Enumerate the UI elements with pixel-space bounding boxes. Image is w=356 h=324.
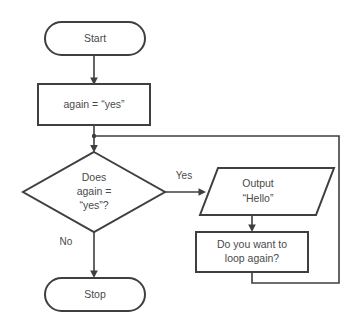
junction-dot-icon (92, 134, 96, 138)
connector-decision-no-to-stop (90, 232, 98, 278)
node-start[interactable]: Start (45, 22, 145, 55)
arrowhead-icon (248, 225, 256, 233)
connector-start-to-assign (90, 55, 98, 85)
decision-label-line2: again = (77, 185, 112, 197)
flowchart-canvas: Start again = “yes” Does again = “yes”? … (0, 0, 356, 324)
node-stop[interactable]: Stop (45, 278, 145, 311)
edge-label-yes: Yes (176, 170, 192, 181)
prompt-label-line1: Do you want to (217, 238, 287, 250)
connector-output-to-prompt (248, 215, 256, 232)
output-label-line2: “Hello” (243, 192, 274, 204)
stop-label: Stop (84, 288, 106, 300)
edge-label-no: No (60, 236, 73, 247)
flowchart-svg: Start again = “yes” Does again = “yes”? … (0, 0, 356, 324)
node-assign[interactable]: again = “yes” (38, 84, 150, 125)
arrowhead-icon (199, 188, 207, 196)
prompt-label-line2: loop again? (225, 252, 279, 264)
node-output[interactable]: Output “Hello” (200, 168, 334, 215)
decision-label-line3: “yes”? (79, 199, 108, 211)
connector-decision-yes-to-output (165, 188, 206, 196)
start-label: Start (84, 32, 106, 44)
output-label-line1: Output (242, 177, 274, 189)
node-decision[interactable]: Does again = “yes”? (23, 152, 165, 232)
connector-assign-to-decision (90, 125, 98, 153)
decision-label-line1: Does (82, 171, 107, 183)
assign-label: again = “yes” (64, 98, 125, 110)
arrowhead-icon (90, 271, 98, 279)
node-prompt[interactable]: Do you want to loop again? (196, 232, 308, 272)
